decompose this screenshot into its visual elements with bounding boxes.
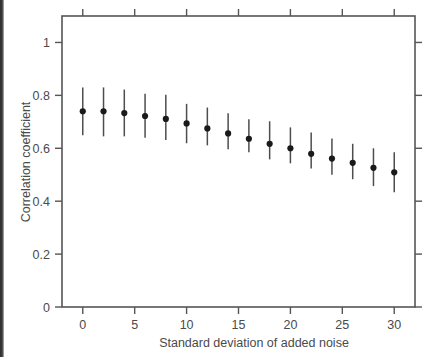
data-point — [183, 120, 189, 126]
y-tick-label: 0 — [43, 301, 50, 315]
y-tick-label: 0.4 — [33, 195, 50, 209]
data-point — [163, 116, 169, 122]
data-point — [142, 113, 148, 119]
x-axis-tick-labels: 051015202530 — [79, 318, 401, 332]
error-bars — [83, 87, 394, 192]
x-tick-label: 30 — [387, 318, 401, 332]
data-point — [80, 108, 86, 114]
data-point — [287, 145, 293, 151]
x-tick-label: 0 — [79, 318, 86, 332]
x-axis-label: Standard deviation of added noise — [159, 336, 349, 350]
y-axis-label: Correlation coefficient — [19, 101, 33, 222]
y-tick-label: 0.8 — [33, 89, 50, 103]
x-tick-label: 20 — [283, 318, 297, 332]
right-axis-ticks — [415, 42, 422, 307]
y-axis-ticks — [55, 42, 62, 307]
data-point — [121, 110, 127, 116]
x-tick-label: 10 — [180, 318, 194, 332]
y-tick-label: 1 — [43, 36, 50, 50]
data-point-markers — [80, 108, 398, 175]
data-point — [308, 151, 314, 157]
data-point — [100, 108, 106, 114]
data-point — [267, 141, 273, 147]
x-tick-label: 5 — [131, 318, 138, 332]
page-scan-edge — [0, 0, 4, 357]
x-tick-label: 25 — [335, 318, 349, 332]
figure-container: 051015202530 00.20.40.60.81 Standard dev… — [0, 0, 433, 357]
plot-frame — [62, 16, 415, 307]
y-tick-label: 0.6 — [33, 142, 50, 156]
x-axis-ticks — [83, 307, 394, 314]
data-point — [225, 130, 231, 136]
data-point — [391, 169, 397, 175]
data-point — [370, 165, 376, 171]
y-tick-label: 0.2 — [33, 248, 50, 262]
y-axis-tick-labels: 00.20.40.60.81 — [33, 36, 50, 315]
data-point — [204, 125, 210, 131]
x-tick-label: 15 — [232, 318, 246, 332]
correlation-vs-noise-chart: 051015202530 00.20.40.60.81 Standard dev… — [0, 0, 433, 357]
data-point — [350, 160, 356, 166]
top-axis-ticks — [83, 9, 394, 16]
data-point — [246, 136, 252, 142]
data-point — [329, 155, 335, 161]
